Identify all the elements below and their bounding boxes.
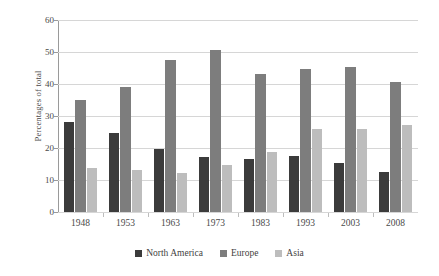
bar: [402, 125, 413, 212]
bar: [379, 172, 390, 212]
x-axis-tick-label: 1973: [206, 218, 225, 228]
bar: [199, 157, 210, 212]
y-axis-tick-mark: [54, 212, 58, 213]
y-axis-tick-label: 60: [34, 16, 54, 25]
x-axis-tick-mark: [193, 213, 194, 217]
bar: [165, 60, 176, 212]
bar-chart-figure: Percentages of total 0102030405060 19481…: [0, 0, 439, 276]
bar: [345, 67, 356, 212]
bar: [109, 133, 120, 212]
bar: [75, 100, 86, 212]
bar-group: [109, 20, 143, 212]
bar-group: [199, 20, 233, 212]
x-axis-tick-label: 1948: [71, 218, 90, 228]
y-axis-tick-label: 20: [34, 144, 54, 153]
bar: [289, 156, 300, 212]
chart-legend: North AmericaEuropeAsia: [0, 248, 439, 258]
y-axis-tick-label: 50: [34, 48, 54, 57]
bar: [300, 69, 311, 212]
bar: [210, 50, 221, 212]
x-axis-tick-label: 1993: [296, 218, 315, 228]
plot-area: [58, 20, 418, 212]
y-axis-tick-label: 10: [34, 176, 54, 185]
bar: [312, 129, 323, 212]
bar-group: [289, 20, 323, 212]
bar-group: [154, 20, 188, 212]
bar: [334, 163, 345, 212]
bar: [390, 82, 401, 212]
bar-group: [379, 20, 413, 212]
legend-label: North America: [146, 248, 203, 258]
bar-group: [64, 20, 98, 212]
y-axis-tick-mark: [54, 148, 58, 149]
bar: [87, 168, 98, 212]
bars-layer: [58, 20, 418, 212]
bar: [64, 122, 75, 212]
bar: [255, 74, 266, 212]
x-axis-tick-mark: [328, 213, 329, 217]
legend-item: North America: [135, 248, 203, 258]
x-axis-tick-label: 1953: [116, 218, 135, 228]
y-axis-tick-label: 0: [34, 208, 54, 217]
bar: [154, 149, 165, 212]
legend-swatch-icon: [275, 250, 282, 257]
y-axis-tick-mark: [54, 180, 58, 181]
legend-item: Europe: [220, 248, 258, 258]
x-axis-tick-mark: [373, 213, 374, 217]
y-axis-tick-mark: [54, 52, 58, 53]
y-axis-tick-labels: 0102030405060: [32, 20, 54, 212]
x-axis-tick-label: 1963: [161, 218, 180, 228]
bar-group: [334, 20, 368, 212]
legend-swatch-icon: [220, 250, 227, 257]
legend-label: Europe: [231, 248, 258, 258]
x-axis-tick-mark: [238, 213, 239, 217]
bar: [357, 129, 368, 212]
x-axis-tick-label: 2003: [341, 218, 360, 228]
y-axis-tick-mark: [54, 116, 58, 117]
bar: [267, 152, 278, 212]
x-axis-tick-label: 1983: [251, 218, 270, 228]
x-axis-tick-mark: [283, 213, 284, 217]
bar-group: [244, 20, 278, 212]
bar: [177, 173, 188, 212]
y-axis-tick-mark: [54, 84, 58, 85]
y-axis-tick-label: 30: [34, 112, 54, 121]
bar: [244, 159, 255, 212]
legend-item: Asia: [275, 248, 303, 258]
y-axis-tick-label: 40: [34, 80, 54, 89]
x-axis-tick-mark: [148, 213, 149, 217]
x-axis-tick-mark: [103, 213, 104, 217]
bar: [132, 170, 143, 212]
y-axis-tick-mark: [54, 20, 58, 21]
bar: [120, 87, 131, 212]
legend-swatch-icon: [135, 250, 142, 257]
legend-label: Asia: [286, 248, 303, 258]
x-axis-tick-label: 2008: [386, 218, 405, 228]
x-axis-tick-labels: 19481953196319731983199320032008: [58, 218, 418, 234]
bar: [222, 165, 233, 212]
